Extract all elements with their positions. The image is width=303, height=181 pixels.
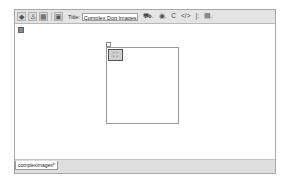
code-navigation-icon[interactable]: </> bbox=[181, 13, 190, 20]
title-input[interactable]: Complex Dog Images bbox=[82, 13, 138, 21]
visual-aids-icon[interactable]: ▤. bbox=[204, 13, 213, 20]
document-toolbar: ◆ ♙ ▦ ▣ Title: Complex Dog Images ⛟. ◉. … bbox=[15, 10, 275, 24]
image-placeholder[interactable]: ⛶ bbox=[108, 49, 123, 61]
split-view-icon: ♙ bbox=[30, 13, 36, 20]
file-management-icon[interactable]: ⛟. bbox=[143, 13, 154, 20]
design-view-canvas[interactable]: ⛶ bbox=[15, 24, 275, 160]
live-view-icon: ▣ bbox=[55, 13, 62, 20]
tab-compleximages[interactable]: compleximages* bbox=[15, 161, 58, 170]
split-view-button[interactable]: ♙ bbox=[28, 12, 37, 21]
head-content-icon[interactable] bbox=[18, 27, 24, 33]
preview-browser-icon[interactable]: ◉. bbox=[159, 13, 167, 20]
design-view-button[interactable]: ▦ bbox=[39, 12, 48, 21]
toolbar-divider bbox=[51, 12, 52, 21]
code-view-icon: ◆ bbox=[19, 13, 24, 20]
debug-icon[interactable]: |: bbox=[195, 13, 199, 20]
title-label: Title: bbox=[68, 14, 80, 20]
content-box[interactable]: ⛶ bbox=[106, 47, 179, 124]
live-view-button[interactable]: ▣ bbox=[54, 12, 63, 21]
design-view-icon: ▦ bbox=[40, 13, 47, 20]
document-window: ◆ ♙ ▦ ▣ Title: Complex Dog Images ⛟. ◉. … bbox=[14, 9, 276, 174]
image-icon: ⛶ bbox=[113, 51, 118, 59]
refresh-icon[interactable]: C bbox=[171, 13, 176, 20]
document-tab-bar: compleximages* bbox=[15, 159, 275, 173]
code-view-button[interactable]: ◆ bbox=[17, 12, 26, 21]
